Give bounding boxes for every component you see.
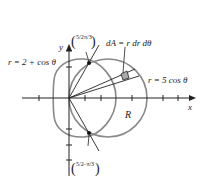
- x-axis-arrow: [189, 95, 196, 101]
- ray-bottom: [69, 98, 99, 151]
- area-element-label: dA = r dr dθ: [106, 38, 152, 48]
- svg-text:5/2: 5/2: [76, 34, 84, 40]
- polar-region-diagram: y x r = 2 + cos θ r = 5 cos θ dA = r dr …: [0, 0, 208, 184]
- svg-text:): ): [95, 161, 100, 177]
- limacon-label: r = 2 + cos θ: [8, 57, 56, 67]
- intersection-top-label: ( 5/2 π/3 ): [71, 34, 96, 50]
- svg-text:−π/3: −π/3: [83, 161, 94, 167]
- intersection-bottom-label: ( 5/2 −π/3 ): [71, 161, 100, 177]
- da-pointer: [123, 47, 125, 73]
- area-element-da: [121, 71, 129, 80]
- top-pointer: [86, 52, 89, 62]
- svg-text:): ): [91, 34, 96, 50]
- x-axis-label: x: [187, 102, 192, 112]
- intersection-bottom-point: [87, 131, 91, 135]
- circle-label: r = 5 cos θ: [148, 75, 188, 85]
- y-axis-label: y: [58, 42, 63, 52]
- region-label: R: [124, 109, 131, 120]
